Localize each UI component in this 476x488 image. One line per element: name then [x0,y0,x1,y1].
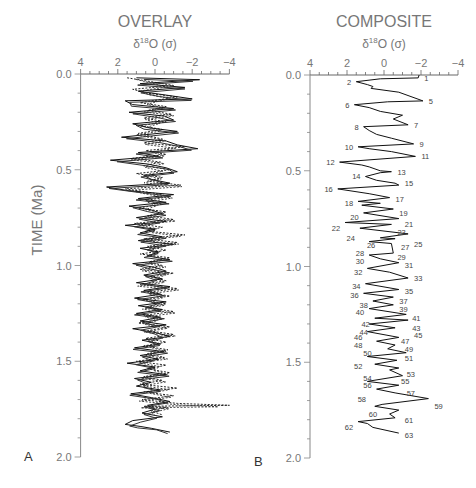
panel-a-plot-lines [107,78,230,434]
stage-label: 20 [350,213,358,222]
panel-b-title: COMPOSITE [336,13,432,30]
stage-label: 61 [405,416,413,425]
stage-label: 60 [369,410,377,419]
x-tick-label: 2 [344,57,350,69]
stage-label: 2 [347,78,351,87]
stage-label: 21 [405,220,413,229]
panel-a-overlay: OVERLAY δ18O (σ) 420−2−40.00.51.01.52.0 … [24,13,236,464]
stage-label: 5 [429,97,433,106]
stage-label: 27 [401,243,409,252]
stage-label: 11 [421,152,429,161]
stage-label: 33 [414,274,422,283]
panel-b-composite: COMPOSITE δ18O (σ) 420−2−40.00.51.01.52.… [254,13,464,469]
stage-label: 7 [414,121,418,130]
panel-b-stage-labels: 1256789101112131415161718192021222324252… [324,74,442,440]
stage-label: 9 [420,140,424,149]
y-tick-label: 1.0 [286,261,301,273]
stage-label: 32 [354,268,362,277]
y-tick-label: 0.0 [56,68,71,80]
y-tick-label: 1.5 [56,355,71,367]
stage-label: 39 [399,305,407,314]
stage-label: 10 [345,143,353,152]
stage-label: 23 [397,228,405,237]
stage-label: 13 [397,168,405,177]
stage-label: 15 [405,179,413,188]
y-tick-label: 1.0 [56,260,71,272]
stage-label: 45 [414,331,422,340]
panel-b-xlabel: δ18O (σ) [362,36,406,51]
x-tick-label: −4 [452,57,465,69]
stage-label: 57 [407,389,415,398]
stage-label: 49 [405,345,413,354]
stage-label: 62 [345,423,353,432]
x-tick-label: 4 [78,56,84,68]
panel-a-xlabel: δ18O (σ) [133,36,177,51]
stage-label: 40 [356,308,364,317]
stage-label: 14 [352,172,360,181]
stage-label: 55 [401,377,409,386]
stage-label: 18 [345,199,353,208]
y-tick-label: 0.0 [286,69,301,81]
stage-label: 16 [324,185,332,194]
x-tick-label: 0 [381,57,387,69]
y-tick-label: 0.5 [286,165,301,177]
stage-label: 41 [412,314,420,323]
y-tick-label: 0.5 [56,164,71,176]
stage-label: 22 [332,224,340,233]
stage-label: 59 [434,402,442,411]
stage-label: 25 [414,240,422,249]
stage-label: 12 [326,158,334,167]
x-tick-label: 4 [307,57,313,69]
y-tick-label: 1.5 [286,356,301,368]
x-tick-label: 2 [115,56,121,68]
stage-label: 30 [356,257,364,266]
stage-label: 63 [405,431,413,440]
stage-label: 26 [367,241,375,250]
stage-label: 24 [347,234,355,243]
stage-label: 1 [424,74,428,83]
x-tick-label: −2 [415,57,428,69]
stage-label: 8 [354,123,358,132]
stage-label: 58 [358,395,366,404]
stage-label: 17 [396,195,404,204]
stage-label: 48 [354,341,362,350]
stage-label: 50 [363,349,371,358]
x-tick-label: 0 [152,56,158,68]
stage-label: 51 [405,354,413,363]
y-tick-label: 2.0 [286,452,301,464]
figure: OVERLAY δ18O (σ) 420−2−40.00.51.01.52.0 … [0,0,476,488]
stage-label: 35 [405,287,413,296]
x-tick-label: −4 [223,56,236,68]
y-axis-label: TIME (Ma) [28,185,45,256]
stage-label: 6 [345,101,349,110]
y-tick-label: 2.0 [56,451,71,463]
stage-label: 52 [354,362,362,371]
x-tick-label: −2 [186,56,199,68]
stage-label: 31 [405,261,413,270]
panel-a-letter: A [24,449,33,464]
dashed-record-line [125,78,229,415]
stage-label: 36 [350,291,358,300]
stage-label: 56 [363,381,371,390]
stage-label: 34 [352,282,360,291]
panel-b-letter: B [254,454,263,469]
panel-a-title: OVERLAY [118,13,193,30]
stage-label: 19 [399,209,407,218]
